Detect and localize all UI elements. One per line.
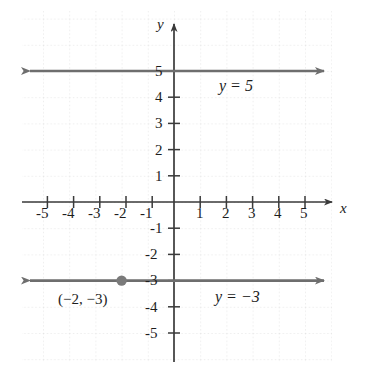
y-tick-label-2: 2 (155, 143, 163, 158)
grid-background (22, 11, 332, 362)
equation-label-y-equals-negative-3: y = −3 (215, 289, 260, 305)
y-tick-label--5: -5 (145, 326, 158, 341)
y-axis-label: y (157, 17, 164, 32)
x-tick-label--4: -4 (62, 206, 75, 221)
x-axis-label: x (340, 201, 347, 216)
y-tick-label--1: -1 (150, 221, 163, 236)
plotted-point (116, 275, 126, 285)
x-tick-label-3: 3 (248, 206, 256, 221)
point-label: (−2, −3) (58, 292, 107, 307)
x-tick-label-5: 5 (300, 206, 308, 221)
x-tick-label--3: -3 (88, 206, 101, 221)
y-tick-label-3: 3 (155, 116, 163, 131)
x-tick-label--5: -5 (36, 206, 49, 221)
x-tick-label--2: -2 (114, 206, 127, 221)
equation-label-y-equals-5: y = 5 (219, 78, 253, 94)
y-tick-label--4: -4 (145, 300, 158, 315)
x-tick-label-4: 4 (274, 206, 282, 221)
y-tick-label--3: -3 (145, 273, 158, 288)
y-tick-label-4: 4 (155, 90, 163, 105)
x-tick-label-1: 1 (196, 206, 204, 221)
x-tick-label--1: -1 (140, 206, 153, 221)
y-tick-label--2: -2 (145, 247, 158, 262)
graph-figure: y x -5 -4 -3 -2 -1 1 2 3 4 5 5 4 3 2 1 -… (0, 0, 365, 368)
y-tick-label-5: 5 (155, 64, 163, 79)
x-tick-label-2: 2 (222, 206, 230, 221)
y-tick-label-1: 1 (155, 169, 163, 184)
coordinate-plane-svg (0, 0, 365, 368)
